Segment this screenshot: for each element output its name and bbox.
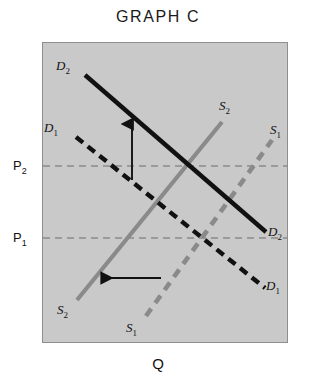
curve-label-d2-right: D2	[268, 224, 282, 242]
curve-label-d1-left: D1	[44, 120, 58, 138]
curve-label-s1-bottom: S1	[126, 320, 137, 338]
plot-canvas	[0, 0, 316, 389]
curve-label-s2-bottom: S2	[57, 302, 68, 320]
y-tick-label-p2: P2	[13, 158, 27, 176]
demand-curve-d2	[85, 75, 266, 232]
y-tick-label-p1: P1	[13, 230, 27, 248]
curve-label-d1-right: D1	[266, 278, 280, 296]
curve-label-s2-top: S2	[219, 98, 230, 116]
graph-figure: GRAPH C P2 P1 D2 D1 D	[0, 0, 316, 389]
curve-label-d2-left: D2	[56, 58, 70, 76]
curve-label-s1-top: S1	[270, 122, 281, 140]
supply-curve-s2	[77, 122, 222, 300]
x-axis-label: Q	[0, 355, 316, 372]
price-level-lines	[43, 166, 287, 238]
